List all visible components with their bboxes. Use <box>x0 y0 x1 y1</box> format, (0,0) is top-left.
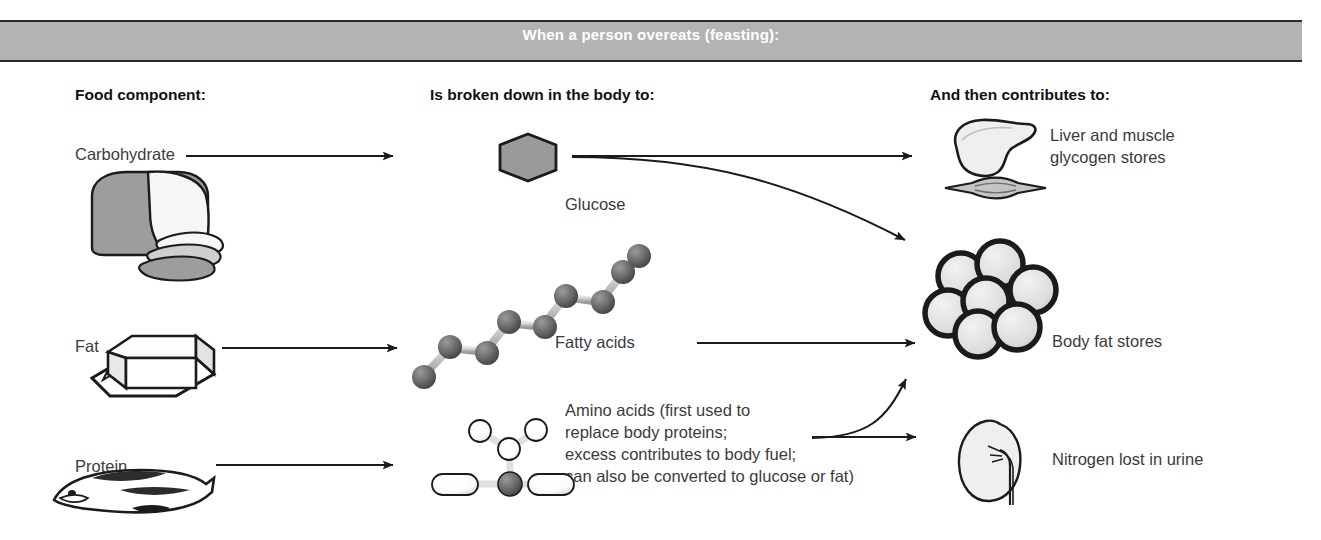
liver-and-muscle-icon <box>945 120 1046 198</box>
amino-acid-molecule-icon <box>432 419 574 496</box>
arrow-glucose-to-bodyfat <box>572 157 905 240</box>
diagram-canvas: When a person overeats (feasting): Food … <box>0 0 1321 540</box>
arrow-aminoacids-to-bodyfat <box>812 379 906 438</box>
kidney-icon <box>959 421 1020 505</box>
fatty-acid-chain-icon <box>412 244 651 389</box>
fat-cell-cluster-icon <box>925 241 1056 357</box>
glucose-hexagon-icon <box>500 134 556 181</box>
illustration-layer <box>0 0 1321 540</box>
muscle-icon <box>945 178 1046 199</box>
butter-stick-icon <box>92 336 214 396</box>
bread-loaf-icon <box>92 172 223 281</box>
fish-icon <box>54 470 214 513</box>
